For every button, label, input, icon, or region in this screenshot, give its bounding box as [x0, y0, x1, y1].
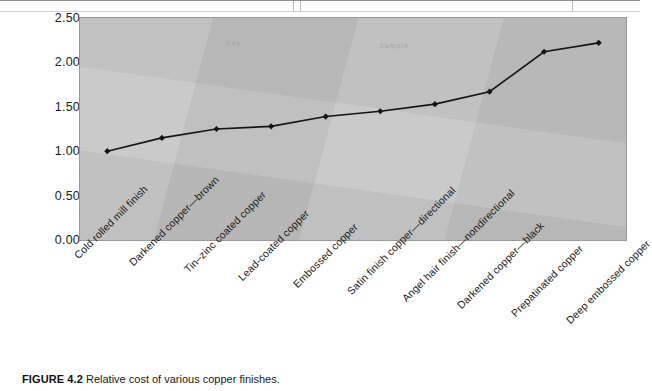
table-fragment-top [0, 0, 640, 11]
y-axis-tick-label: 2.50 [36, 11, 80, 25]
figure-chart: 0.000.501.001.502.002.50 Key Sample Cold… [0, 11, 640, 391]
data-point-marker [213, 126, 219, 132]
y-axis-tick-label: 2.00 [36, 55, 80, 69]
figure-caption-text: Relative cost of various copper finishes… [86, 373, 280, 385]
plot-area: Key Sample [79, 17, 627, 241]
data-point-marker [159, 135, 165, 141]
y-axis-tick-label: 0.50 [36, 189, 80, 203]
data-point-marker [323, 113, 329, 119]
figure-caption: FIGURE 4.2 Relative cost of various copp… [22, 373, 622, 385]
data-point-marker [104, 148, 110, 154]
y-axis-tick-label: 1.50 [36, 100, 80, 114]
data-point-marker [268, 123, 274, 129]
x-axis-tick-labels: Cold rolled mill finishDarkened copper—b… [0, 243, 640, 361]
data-point-marker [596, 40, 602, 46]
data-point-marker [377, 108, 383, 114]
y-axis-tick-labels: 0.000.501.001.502.002.50 [36, 17, 80, 249]
y-axis-tick-label: 1.00 [36, 144, 80, 158]
data-point-marker [432, 101, 438, 107]
figure-number: FIGURE 4.2 [22, 373, 83, 385]
line-series-svg [80, 18, 626, 240]
